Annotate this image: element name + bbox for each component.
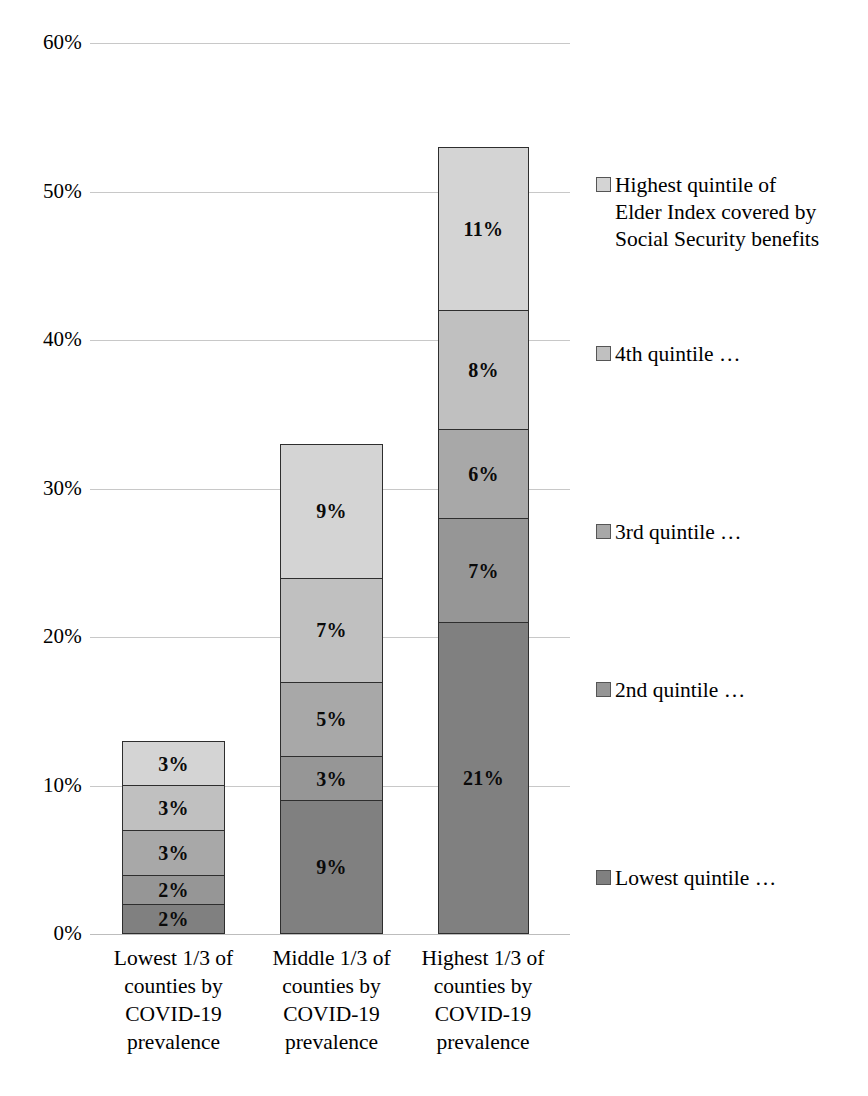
bar-segment: 2%: [122, 904, 225, 934]
bar-segment-value-label: 7%: [316, 620, 347, 640]
x-axis-category-label: Lowest 1/3 of counties by COVID-19 preva…: [94, 944, 254, 1056]
y-axis: 60%50%40%30%20%10%0%: [0, 43, 82, 934]
legend-item[interactable]: Highest quintile of Elder Index covered …: [596, 172, 868, 253]
bar-segment: 11%: [438, 147, 529, 310]
y-axis-tick-label: 20%: [12, 626, 82, 647]
bar-column: 9%7%5%3%9%: [280, 444, 383, 934]
bar-segment-value-label: 2%: [158, 880, 189, 900]
bar-segment-value-label: 5%: [316, 709, 347, 729]
bar-segment: 7%: [280, 578, 383, 682]
legend-item-label: 3rd quintile …: [615, 519, 742, 546]
bar-segment: 9%: [280, 800, 383, 934]
legend-swatch-icon: [596, 177, 611, 192]
bar-segment-value-label: 21%: [463, 768, 504, 788]
x-axis-category-label: Middle 1/3 of counties by COVID-19 preva…: [252, 944, 412, 1056]
bar-segment: 3%: [280, 756, 383, 801]
legend: Highest quintile of Elder Index covered …: [596, 0, 868, 1096]
bar-segment: 7%: [438, 518, 529, 622]
plot-area: 3%3%3%2%2%9%7%5%3%9%11%8%6%7%21%: [90, 43, 570, 934]
axis-baseline: [90, 934, 570, 935]
legend-swatch-icon: [596, 346, 611, 361]
legend-swatch-icon: [596, 870, 611, 885]
bar-segment-value-label: 9%: [316, 501, 347, 521]
bar-segment-value-label: 3%: [158, 754, 189, 774]
bar-segment: 6%: [438, 429, 529, 518]
gridline: [90, 43, 570, 44]
bar-segment-value-label: 3%: [316, 769, 347, 789]
bar-segment-value-label: 3%: [158, 843, 189, 863]
bar-segment: 8%: [438, 310, 529, 429]
legend-swatch-icon: [596, 524, 611, 539]
bar-segment: 3%: [122, 830, 225, 875]
bar-segment-value-label: 2%: [158, 909, 189, 929]
y-axis-tick-label: 30%: [12, 478, 82, 499]
legend-item[interactable]: 4th quintile …: [596, 341, 868, 368]
bar-segment-value-label: 6%: [468, 464, 499, 484]
legend-item[interactable]: Lowest quintile …: [596, 865, 868, 892]
y-axis-tick-label: 10%: [12, 775, 82, 796]
bar-segment-value-label: 11%: [464, 219, 504, 239]
legend-item-label: 2nd quintile …: [615, 677, 745, 704]
bar-segment: 21%: [438, 622, 529, 934]
x-axis-category-label: Highest 1/3 of counties by COVID-19 prev…: [403, 944, 563, 1056]
bar-segment: 3%: [122, 785, 225, 830]
legend-item-label: Lowest quintile …: [615, 865, 776, 892]
stacked-bar-chart: 60%50%40%30%20%10%0% 3%3%3%2%2%9%7%5%3%9…: [0, 0, 868, 1096]
bar-segment-value-label: 8%: [468, 360, 499, 380]
bar-segment-value-label: 3%: [158, 798, 189, 818]
bar-segment: 3%: [122, 741, 225, 786]
legend-item-label: 4th quintile …: [615, 341, 740, 368]
bar-segment: 2%: [122, 875, 225, 905]
y-axis-tick-label: 40%: [12, 329, 82, 350]
bar-segment-value-label: 9%: [316, 857, 347, 877]
legend-swatch-icon: [596, 682, 611, 697]
bar-segment: 5%: [280, 682, 383, 756]
legend-item[interactable]: 3rd quintile …: [596, 519, 868, 546]
bar-segment-value-label: 7%: [468, 561, 499, 581]
legend-item[interactable]: 2nd quintile …: [596, 677, 868, 704]
y-axis-tick-label: 0%: [12, 923, 82, 944]
bar-segment: 9%: [280, 444, 383, 578]
legend-item-label: Highest quintile of Elder Index covered …: [615, 172, 819, 253]
y-axis-tick-label: 60%: [12, 32, 82, 53]
bar-column: 3%3%3%2%2%: [122, 741, 225, 934]
bar-column: 11%8%6%7%21%: [438, 147, 529, 934]
y-axis-tick-label: 50%: [12, 181, 82, 202]
